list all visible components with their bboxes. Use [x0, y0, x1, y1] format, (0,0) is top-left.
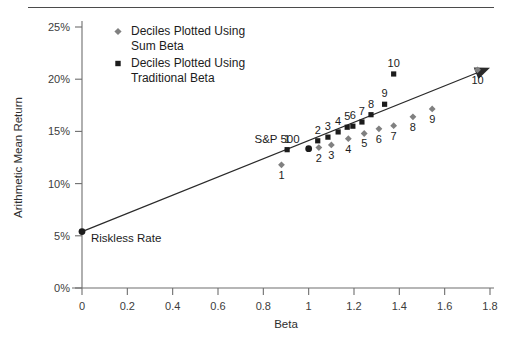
data-point-marker: [285, 147, 290, 152]
y-tick-label: 5%: [54, 230, 70, 242]
data-point-marker: [278, 161, 285, 168]
x-tick-label: 0: [79, 300, 85, 312]
security-market-line: [82, 72, 480, 232]
data-point-label: 7: [359, 105, 365, 117]
data-point-marker: [359, 119, 364, 124]
data-point-marker: [350, 124, 355, 129]
x-tick-label: 0.2: [120, 300, 135, 312]
data-point-marker: [328, 142, 335, 149]
scatter-plot-svg: 0%5%10%15%20%25%00.20.40.60.811.21.41.61…: [0, 0, 506, 351]
data-point-marker: [345, 135, 352, 142]
data-point-label: 8: [368, 98, 374, 110]
data-point-label: 1: [278, 169, 284, 181]
y-tick-label: 0%: [54, 282, 70, 294]
data-point-label: 4: [345, 143, 351, 155]
data-point-marker: [391, 71, 396, 76]
data-point-label: 9: [429, 113, 435, 125]
data-point-marker: [382, 102, 387, 107]
legend-marker-diamond: [114, 28, 121, 35]
data-point-marker: [325, 135, 330, 140]
legend-label: Sum Beta: [131, 39, 184, 53]
data-point-label: 6: [376, 133, 382, 145]
reference-point-marker: [305, 145, 312, 152]
data-point-marker: [315, 138, 320, 143]
y-tick-label: 25%: [48, 21, 70, 33]
x-tick-label: 0.8: [256, 300, 271, 312]
data-point-label: 2: [315, 124, 321, 136]
data-point-marker: [429, 106, 436, 113]
chart-figure: 0%5%10%15%20%25%00.20.40.60.811.21.41.61…: [0, 0, 506, 351]
data-point-marker: [390, 122, 397, 129]
data-point-label: 10: [471, 74, 483, 86]
data-point-label: 5: [361, 137, 367, 149]
data-point-marker: [336, 129, 341, 134]
reference-point-marker: [79, 228, 86, 235]
data-point-label: 9: [382, 87, 388, 99]
y-tick-label: 15%: [48, 125, 70, 137]
legend-label: Deciles Plotted Using: [131, 24, 245, 38]
data-point-label: 8: [410, 121, 416, 133]
x-tick-label: 1.8: [482, 300, 497, 312]
data-point-marker: [376, 125, 383, 132]
x-tick-label: 0.4: [165, 300, 180, 312]
data-point-marker: [345, 125, 350, 130]
legend-marker-square: [115, 61, 120, 66]
y-tick-label: 10%: [48, 178, 70, 190]
data-point-marker: [368, 112, 373, 117]
x-tick-label: 1.2: [346, 300, 361, 312]
x-tick-label: 0.6: [210, 300, 225, 312]
x-tick-label: 1: [306, 300, 312, 312]
data-point-label: 10: [388, 57, 400, 69]
data-point-label: 6: [350, 109, 356, 121]
data-point-marker: [410, 113, 417, 120]
data-point-label: 7: [391, 130, 397, 142]
data-point-marker: [361, 130, 368, 137]
x-tick-label: 1.6: [437, 300, 452, 312]
data-point-label: 4: [335, 115, 341, 127]
legend-label: Traditional Beta: [131, 71, 215, 85]
y-axis-title: Arithmetic Mean Return: [12, 97, 24, 218]
data-point-label: 2: [316, 152, 322, 164]
data-point-marker: [315, 144, 322, 151]
x-axis-title: Beta: [274, 318, 298, 330]
riskless-rate-annotation: Riskless Rate: [91, 232, 161, 244]
sp500-annotation: S&P 500: [254, 133, 299, 145]
data-point-label: 3: [328, 149, 334, 161]
data-point-label: 3: [325, 120, 331, 132]
x-tick-label: 1.4: [392, 300, 407, 312]
y-tick-label: 20%: [48, 73, 70, 85]
legend-label: Deciles Plotted Using: [131, 56, 245, 70]
